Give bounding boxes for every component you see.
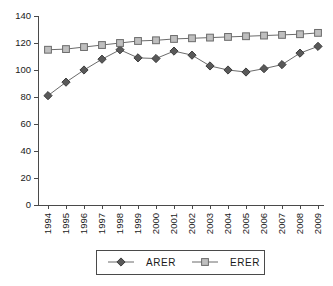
y-axis-tick-label: 100 (15, 64, 31, 75)
x-axis-tick-label: 2007 (276, 213, 287, 234)
x-axis-tick-label: 2003 (204, 213, 215, 234)
chart-figure: 0204060801001201401994199519961997199819… (0, 0, 333, 286)
data-point-marker (207, 34, 214, 41)
data-point-marker (206, 62, 214, 70)
square-marker (202, 259, 209, 266)
data-point-marker (44, 92, 52, 100)
y-axis-tick-label: 40 (20, 145, 31, 156)
x-axis-tick-label: 2009 (312, 213, 323, 234)
y-axis-tick-label: 60 (20, 118, 31, 129)
data-point-marker (45, 46, 52, 53)
y-axis-tick-label: 140 (15, 10, 31, 21)
data-point-marker (171, 36, 178, 43)
y-axis-tick-label: 80 (20, 91, 31, 102)
data-point-marker (279, 32, 286, 39)
x-axis-tick-label: 2005 (240, 213, 251, 234)
y-axis-tick-label: 0 (26, 199, 31, 210)
data-point-marker (225, 34, 232, 41)
data-point-marker (296, 49, 304, 57)
x-axis-tick-label: 1994 (42, 213, 53, 234)
data-point-marker (135, 38, 142, 45)
x-axis-tick-label: 1997 (96, 213, 107, 234)
legend-label: ARER (146, 257, 176, 268)
x-axis-tick-label: 1996 (78, 213, 89, 234)
data-point-marker (260, 65, 268, 73)
series-erer (45, 29, 322, 53)
legend-label: ERER (230, 257, 260, 268)
series-line (48, 33, 318, 50)
x-axis-tick-label: 2001 (168, 213, 179, 234)
line-chart-canvas: 0204060801001201401994199519961997199819… (0, 0, 333, 286)
data-point-marker (98, 55, 106, 63)
data-point-marker (297, 31, 304, 38)
data-point-marker (243, 33, 250, 40)
data-point-marker (315, 29, 322, 36)
figure-caption (0, 278, 333, 286)
x-axis-tick-label: 1995 (60, 213, 71, 234)
data-point-marker (278, 61, 286, 69)
x-axis-tick-label: 1999 (132, 213, 143, 234)
x-axis-tick-label: 2000 (150, 213, 161, 234)
data-point-marker (153, 37, 160, 44)
data-point-marker (189, 35, 196, 42)
data-point-marker (314, 42, 322, 50)
data-point-marker (63, 46, 70, 53)
data-point-marker (261, 32, 268, 39)
series-line (48, 46, 318, 95)
data-point-marker (170, 47, 178, 55)
y-axis-tick-label: 120 (15, 37, 31, 48)
data-point-marker (80, 66, 88, 74)
data-point-marker (99, 42, 106, 49)
data-point-marker (224, 66, 232, 74)
x-axis-tick-label: 2004 (222, 213, 233, 234)
y-axis-tick-label: 20 (20, 172, 31, 183)
x-axis-tick-label: 2006 (258, 213, 269, 234)
data-point-marker (62, 78, 70, 86)
x-axis-tick-label: 2008 (294, 213, 305, 234)
x-axis-tick-label: 2002 (186, 213, 197, 234)
data-point-marker (117, 40, 124, 47)
data-point-marker (152, 54, 160, 62)
x-axis-tick-label: 1998 (114, 213, 125, 234)
data-point-marker (242, 68, 250, 76)
data-point-marker (81, 44, 88, 51)
data-point-marker (134, 54, 142, 62)
data-point-marker (188, 51, 196, 59)
